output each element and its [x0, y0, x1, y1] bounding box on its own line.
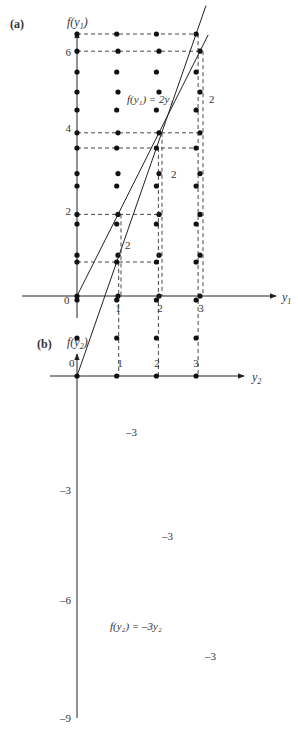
function-line-b [77, 6, 206, 377]
lattice-dot [114, 297, 119, 302]
y-tick-labels-a: 2 4 6 [66, 46, 72, 217]
lattice-dot [194, 145, 199, 150]
step-label: –3 [125, 426, 138, 438]
lattice-dot [74, 31, 79, 36]
lattice-dot [194, 107, 199, 112]
lattice-dot [194, 221, 199, 226]
lattice-dot [154, 297, 159, 302]
lattice-dot [194, 373, 199, 378]
origin-label-a: 0 [64, 294, 70, 306]
lattice-dot [115, 130, 120, 135]
lattice-dot [115, 89, 120, 94]
step-label: 2 [209, 93, 215, 105]
lattice-dot [74, 212, 79, 217]
lattice-dot [74, 183, 79, 188]
lattice-dot [194, 183, 199, 188]
y-tick-label: –9 [59, 712, 72, 724]
panel-label-a: (a) [10, 17, 24, 31]
lattice-dot [74, 145, 79, 150]
lattice-dot [115, 212, 120, 217]
lattice-dot [115, 49, 120, 54]
step-label: –3 [161, 530, 174, 542]
lattice-dot [74, 335, 79, 340]
y-tick-label: 4 [66, 122, 72, 134]
lattice-dot [114, 183, 119, 188]
lattice-dot [74, 49, 79, 54]
x-tick-labels-b: 1 2 3 [117, 357, 199, 369]
lattice-dot [194, 259, 199, 264]
panel-a: (a) f(y1) y1 0 1 2 3 2 4 6 f(y₁) = 2y₁ 2… [10, 15, 291, 318]
function-line [77, 35, 208, 296]
step-label: 2 [125, 239, 131, 251]
y-axis-label-a: f(y1) [67, 15, 88, 31]
lattice-dot [74, 297, 79, 302]
x-axis-label-a: y1 [281, 290, 291, 306]
panel-b: (b) f(y2) y2 0 1 2 3 –3 –6 –9 f(y₂) = –3… [37, 6, 261, 725]
y-tick-labels-b: –3 –6 –9 [59, 484, 72, 724]
y-tick-label: 6 [66, 46, 72, 58]
lattice-dot [194, 69, 199, 74]
origin-label-b: 0 [69, 357, 75, 369]
lattice-dot [74, 171, 79, 176]
lattice-dot [154, 31, 159, 36]
lattice-dot [74, 253, 79, 258]
lattice-dot [114, 335, 119, 340]
lattice-dot [156, 212, 161, 217]
lattice-dot [154, 259, 159, 264]
lattice-dot [74, 373, 79, 378]
lattice-dot [194, 31, 199, 36]
y-tick-label: –3 [59, 484, 72, 496]
lattice-dot [114, 373, 119, 378]
lattice-dot [114, 145, 119, 150]
lattice-dot [114, 221, 119, 226]
lattice-dot [74, 107, 79, 112]
lattice-dot [156, 171, 161, 176]
lattice-dot [194, 335, 199, 340]
function-line-a [77, 35, 208, 296]
x-tick-label: 1 [117, 357, 123, 369]
x-tick-labels-a: 1 2 3 [115, 302, 204, 314]
lattice-dot [114, 259, 119, 264]
x-tick-label: 3 [193, 357, 199, 369]
step-label: –3 [204, 650, 217, 662]
lattice-dot [154, 221, 159, 226]
function-line [77, 6, 206, 377]
panel-label-b: (b) [37, 337, 52, 351]
lattice-dot [154, 335, 159, 340]
y-tick-label: –6 [59, 594, 72, 606]
x-tick-label: 3 [198, 302, 204, 314]
lattice-dot [114, 31, 119, 36]
lattice-dot [154, 373, 159, 378]
lattice-dot [154, 145, 159, 150]
x-axis-label-b: y2 [251, 370, 261, 386]
lattice-dot [74, 69, 79, 74]
function-label-a: f(y₁) = 2y₁ [127, 93, 173, 106]
lattice-dot [74, 259, 79, 264]
lattice-dot [154, 183, 159, 188]
lattice-dot [154, 69, 159, 74]
lattice-dot [115, 171, 120, 176]
lattice-dot [194, 297, 199, 302]
function-label-b: f(y₂) = –3y₂ [110, 620, 162, 633]
lattice-dot [156, 253, 161, 258]
lattice-dot [74, 221, 79, 226]
lattice-dot [154, 107, 159, 112]
lattice-dot [156, 49, 161, 54]
x-tick-label: 1 [115, 302, 121, 314]
lattice-dot [74, 130, 79, 135]
y-tick-label: 2 [66, 205, 72, 217]
lattice-dot [114, 69, 119, 74]
step-label: 2 [171, 168, 177, 180]
lattice-dot [74, 89, 79, 94]
linear-function-diagram: (a) f(y1) y1 0 1 2 3 2 4 6 f(y₁) = 2y₁ 2… [0, 0, 298, 735]
x-tick-label: 2 [154, 357, 160, 369]
lattice-dot [114, 107, 119, 112]
